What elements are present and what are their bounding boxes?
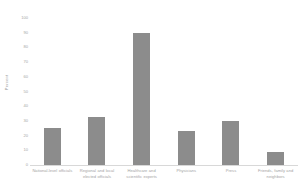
y-axis-title-label: Percent	[5, 75, 10, 91]
bar-slot	[75, 18, 120, 165]
bar-slot	[30, 18, 75, 165]
y-axis-tick-label: 20	[23, 134, 28, 138]
bar	[44, 128, 61, 165]
x-axis-category-label: Friends, family and neighbors	[255, 168, 297, 196]
bar	[178, 131, 195, 165]
y-axis-tick-label: 40	[23, 104, 28, 108]
bar-slot	[253, 18, 298, 165]
x-axis-category-label: National-level officials	[31, 168, 73, 196]
bar-series	[30, 18, 298, 165]
bar-chart: Percent 1009080706050403020100 National-…	[0, 0, 304, 196]
y-axis-tick-label: 70	[23, 60, 28, 64]
y-axis-tick-labels: 1009080706050403020100	[12, 0, 30, 196]
x-axis-category-label: Press	[210, 168, 252, 196]
y-axis-tick-label: 0	[26, 163, 28, 167]
bar-slot	[209, 18, 254, 165]
y-axis-tick-label: 80	[23, 45, 28, 49]
x-label-slot: Physicians	[164, 168, 209, 196]
bar-slot	[119, 18, 164, 165]
x-label-slot: Healthcare and scientific experts	[119, 168, 164, 196]
x-axis-category-label: Healthcare and scientific experts	[121, 168, 163, 196]
x-axis-line	[30, 165, 298, 166]
x-axis-category-label: Physicians	[165, 168, 207, 196]
x-axis-category-label: Regional and local elected officials	[76, 168, 118, 196]
y-axis-tick-label: 90	[23, 31, 28, 35]
x-label-slot: Friends, family and neighbors	[253, 168, 298, 196]
x-label-slot: Press	[209, 168, 254, 196]
bar	[133, 33, 150, 165]
bar	[88, 117, 105, 166]
y-axis-tick-label: 30	[23, 119, 28, 123]
y-axis-tick-label: 100	[21, 16, 28, 20]
bar	[267, 152, 284, 165]
x-label-slot: Regional and local elected officials	[75, 168, 120, 196]
y-axis-tick-label: 10	[23, 148, 28, 152]
bar	[222, 121, 239, 165]
x-label-slot: National-level officials	[30, 168, 75, 196]
bar-slot	[164, 18, 209, 165]
x-axis-category-labels: National-level officialsRegional and loc…	[30, 168, 298, 196]
y-axis-tick-label: 60	[23, 75, 28, 79]
y-axis-tick-label: 50	[23, 89, 28, 93]
